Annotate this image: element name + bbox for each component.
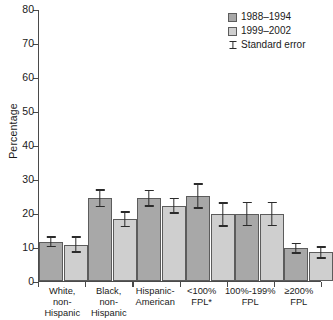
x-axis-labels: White, non- HispanicBlack, non- Hispanic… [39,286,322,320]
bar-slot [88,10,112,281]
x-axis-label-5: ≥200% FPL [276,286,322,320]
error-bar-series-0-cat-4 [246,202,247,226]
legend-item-series-1: 1999–2002 [228,24,305,38]
legend-swatch-icon-series-0 [228,13,237,22]
y-tick-label: 40 [22,139,34,151]
legend-item-series-0: 1988–1994 [228,10,305,24]
y-tick-label: 10 [22,241,34,253]
y-tick-label: 0 [28,275,34,287]
bar-slot [309,10,333,281]
bar-series-0-cat-3[interactable] [186,196,210,281]
bar-slot [162,10,186,281]
y-tick-label: 70 [22,37,34,49]
bar-series-0-cat-1[interactable] [88,198,112,281]
error-bar-series-1-cat-4 [271,202,272,226]
chart-legend: 1988–1994 1999–2002 Standard error [228,10,305,52]
x-axis-label-3: <100% FPL* [178,286,224,320]
bar-slot [39,10,63,281]
error-bar-series-0-cat-2 [148,190,149,207]
bar-slot [186,10,210,281]
y-tick-label: 50 [22,105,34,117]
bar-group-1 [88,10,137,281]
error-bar-icon [228,40,237,50]
error-bar-series-1-cat-5 [320,246,321,258]
bar-slot [64,10,88,281]
error-bar-series-0-cat-5 [295,243,296,254]
x-axis-label-1: Black, non- Hispanic [85,286,131,320]
bar-group-2 [137,10,186,281]
error-bar-series-1-cat-1 [124,211,125,227]
error-bar-series-0-cat-3 [197,183,198,208]
bar-series-1-cat-2[interactable] [162,206,186,281]
bar-group-0 [39,10,88,281]
legend-item-standard-error: Standard error [228,38,305,52]
error-bar-series-1-cat-2 [173,198,174,214]
error-bar-series-0-cat-0 [50,236,51,247]
x-axis-label-4: 100%-199% FPL [225,286,276,320]
y-axis-title: Percentage [7,86,19,176]
bar-series-0-cat-2[interactable] [137,198,161,281]
error-bar-series-0-cat-1 [99,189,100,207]
legend-label-series-0: 1988–1994 [241,10,291,24]
bar-slot [137,10,161,281]
legend-swatch-icon-series-1 [228,27,237,36]
error-bar-series-1-cat-3 [222,202,223,226]
x-axis-label-2: Hispanic- American [132,286,178,320]
bar-series-0-cat-0[interactable] [39,242,63,281]
legend-label-series-1: 1999–2002 [241,24,291,38]
y-tick-label: 80 [22,3,34,15]
error-bar-series-1-cat-0 [75,236,76,252]
y-tick-label: 60 [22,71,34,83]
y-tick-label: 30 [22,173,34,185]
bar-series-1-cat-1[interactable] [113,219,137,281]
x-axis-label-0: White, non- Hispanic [39,286,85,320]
legend-label-standard-error: Standard error [241,38,305,52]
y-tick-label: 20 [22,207,34,219]
bar-slot [113,10,137,281]
